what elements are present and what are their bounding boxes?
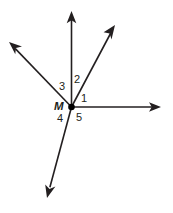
- angle-label-1: 1: [81, 93, 87, 104]
- angle-diagram-canvas: [0, 0, 173, 213]
- vertex-label-m: M: [54, 101, 64, 112]
- vertex-point-m: [68, 104, 75, 111]
- ray-upper-right: [72, 25, 116, 107]
- angle-diagram-figure: M 1 2 3 4 5: [0, 0, 173, 213]
- ray-up: [67, 11, 77, 107]
- ray-upper-left-line: [15, 49, 71, 107]
- ray-upper-right-line: [72, 33, 111, 107]
- angle-label-3: 3: [59, 81, 65, 92]
- angle-label-5: 5: [76, 112, 82, 123]
- ray-upper-left: [9, 42, 72, 107]
- angle-label-4: 4: [57, 113, 63, 124]
- angle-label-2: 2: [74, 74, 80, 85]
